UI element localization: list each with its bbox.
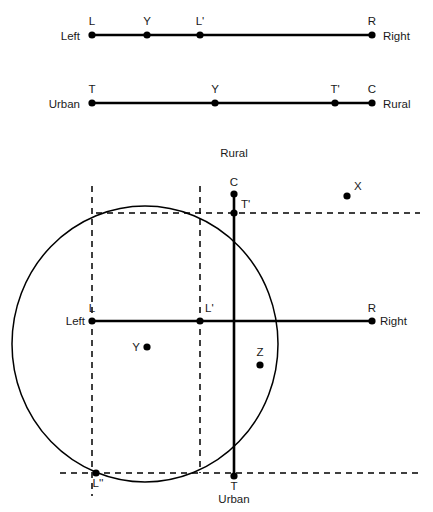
axis2-point-C xyxy=(368,99,375,106)
main-point-label-R: R xyxy=(368,302,376,314)
axis2-point-Tp xyxy=(331,99,338,106)
main-point-label-C: C xyxy=(230,176,238,188)
main-point-label-Y: Y xyxy=(132,341,140,353)
main-point-Tp xyxy=(230,209,237,216)
axis2-point-label-C: C xyxy=(368,83,376,95)
axis2-point-label-Tp: T' xyxy=(330,83,339,95)
main-axis-label-urban-bottom: Urban xyxy=(218,493,249,505)
main-point-L xyxy=(88,317,95,324)
axis2-right-label: Rural xyxy=(383,98,410,110)
axis2-point-Y xyxy=(211,99,218,106)
axis1-point-Lp xyxy=(196,31,203,38)
axis2-left-label: Urban xyxy=(49,98,80,110)
main-point-label-Lpp: L'' xyxy=(93,477,104,489)
main-point-X xyxy=(343,192,350,199)
main-point-C xyxy=(230,190,237,197)
axis2-point-label-T: T xyxy=(88,83,95,95)
diagram-root: LeftRightLYL'RUrbanRuralTYT'CRuralUrbanL… xyxy=(0,0,433,512)
main-point-label-L: L xyxy=(89,302,96,314)
axis1-point-label-Y: Y xyxy=(143,15,151,27)
main-point-T xyxy=(230,472,237,479)
main-point-Y xyxy=(143,343,150,350)
main-point-label-Tp: T' xyxy=(241,198,250,210)
main-point-Lpp xyxy=(92,469,99,476)
main-point-label-T: T xyxy=(230,480,237,492)
main-point-label-Z: Z xyxy=(256,346,263,358)
axis1-point-label-R: R xyxy=(368,15,376,27)
main-axis-label-right-side: Right xyxy=(380,315,408,327)
main-axis-label-left-side: Left xyxy=(66,315,86,327)
main-point-label-Lp: L' xyxy=(205,302,214,314)
axis2-point-T xyxy=(88,99,95,106)
axis1-point-R xyxy=(368,31,375,38)
axis1-right-label: Right xyxy=(383,30,411,42)
main-axis-label-rural-top: Rural xyxy=(220,147,247,159)
diagram-canvas: LeftRightLYL'RUrbanRuralTYT'CRuralUrbanL… xyxy=(0,0,433,512)
main-point-Z xyxy=(256,361,263,368)
axis2-point-label-Y: Y xyxy=(211,83,219,95)
main-point-label-X: X xyxy=(354,180,362,192)
axis1-point-L xyxy=(88,31,95,38)
axis1-point-label-L: L xyxy=(89,15,96,27)
axis1-point-Y xyxy=(143,31,150,38)
axis1-point-label-Lp: L' xyxy=(196,15,205,27)
boundary-ellipse xyxy=(12,206,278,482)
main-point-Lp xyxy=(196,317,203,324)
axis1-left-label: Left xyxy=(61,30,81,42)
main-point-R xyxy=(368,317,375,324)
